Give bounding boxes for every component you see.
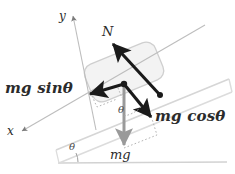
gravity-perpendicular-vector (124, 84, 151, 117)
y-axis-label: y (59, 10, 66, 22)
x-axis-label: x (7, 125, 14, 137)
incline-angle-arc (76, 153, 78, 162)
incline-right-cap (229, 79, 232, 92)
gravity-perpendicular-label: mg cosθ (155, 109, 226, 124)
normal-force-tail-dot (157, 92, 163, 98)
component-angle-arc (124, 106, 142, 116)
component-angle-label: θ (118, 105, 124, 115)
free-body-diagram: y x N mg sinθ mg cosθ mg θ θ (0, 0, 235, 174)
incline-lower-edge (59, 92, 232, 163)
normal-force-label: N (102, 25, 113, 38)
incline-angle-label: θ (69, 142, 75, 152)
gravity-parallel-label: mg sinθ (5, 81, 73, 96)
origin-dot (121, 81, 127, 87)
incline-left-vertex (56, 150, 59, 163)
weight-label: mg (110, 148, 131, 161)
ground-line (58, 162, 227, 163)
